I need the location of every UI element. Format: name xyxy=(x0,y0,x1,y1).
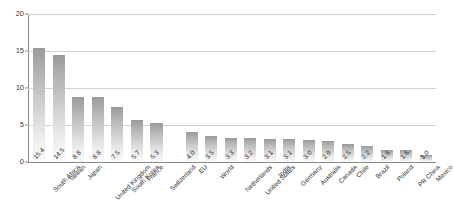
y-axis-tick-label: 20 xyxy=(16,10,24,18)
x-axis-category-label: Chile xyxy=(355,164,370,179)
bar-slot: 3.2 xyxy=(244,14,256,162)
bar-slot: 1.6 xyxy=(400,14,412,162)
y-axis-tick-label: 5 xyxy=(20,121,24,129)
y-axis-tick-mark xyxy=(25,14,28,15)
bar-slot: 3.3 xyxy=(225,14,237,162)
axis-baseline xyxy=(28,162,436,163)
bar-slot: 5.3 xyxy=(150,14,162,162)
bars-layer: 15.414.58.88.87.55.75.34.03.53.33.23.13.… xyxy=(29,14,436,162)
bar-slot: 7.5 xyxy=(111,14,123,162)
bar-slot: 1.6 xyxy=(381,14,393,162)
x-axis-category-label: Poland xyxy=(396,164,415,183)
bar-slot: 2.2 xyxy=(361,14,373,162)
bar-slot: 3.1 xyxy=(283,14,295,162)
bar-slot: 15.4 xyxy=(33,14,45,162)
bar-slot: 4.0 xyxy=(186,14,198,162)
y-axis-tick-mark xyxy=(25,88,28,89)
y-axis-tick-label: 10 xyxy=(16,84,24,92)
bar-slot: 5.7 xyxy=(131,14,143,162)
y-axis-tick-label: 15 xyxy=(16,47,24,55)
bar-slot: 8.8 xyxy=(72,14,84,162)
x-axis-category-label: World xyxy=(219,164,236,181)
x-axis-category-label: EU xyxy=(197,164,208,175)
bar-slot: 2.5 xyxy=(342,14,354,162)
bar-slot: 2.9 xyxy=(322,14,334,162)
y-axis-tick-label: 0 xyxy=(20,158,24,166)
y-axis-tick-mark xyxy=(25,51,28,52)
x-axis-category-label: Switzerland xyxy=(169,164,197,192)
bar-slot: 14.5 xyxy=(53,14,65,162)
x-axis-category-labels: South AfricaTaiwanJapanUnited KingdomSou… xyxy=(29,164,436,222)
bar-slot: 3.0 xyxy=(303,14,315,162)
plot-area: 05101520 15.414.58.88.87.55.75.34.03.53.… xyxy=(28,14,436,162)
x-axis-category-label: Japan xyxy=(87,164,104,181)
bar[interactable] xyxy=(33,48,45,162)
x-axis-category-label: Germany xyxy=(300,164,324,188)
x-axis-category-label: Taiwan xyxy=(68,164,87,183)
bar-slot: 8.8 xyxy=(92,14,104,162)
bar-slot: 3.1 xyxy=(264,14,276,162)
y-axis-tick-mark xyxy=(25,125,28,126)
x-axis-category-label: Brazil xyxy=(375,164,391,180)
bar-slot: 3.5 xyxy=(205,14,217,162)
bar[interactable] xyxy=(53,55,65,162)
bar-slot: 1.0 xyxy=(420,14,432,162)
y-axis-tick-mark xyxy=(25,162,28,163)
